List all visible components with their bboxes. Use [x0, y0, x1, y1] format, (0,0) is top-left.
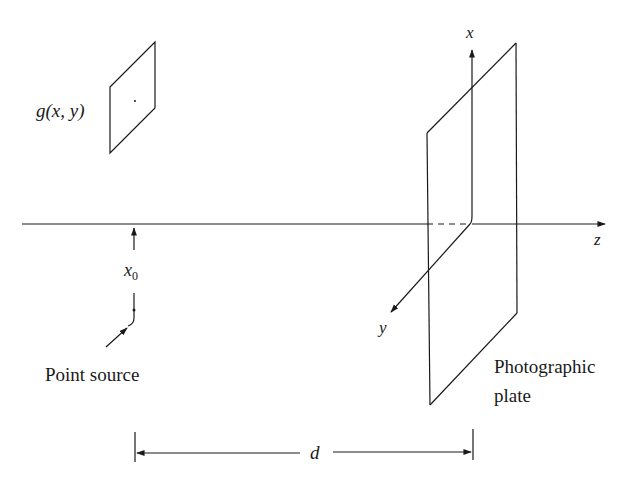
object-dot — [134, 100, 136, 102]
point-source-label: Point source — [45, 364, 139, 385]
distance-label: d — [310, 442, 320, 463]
y-axis — [391, 224, 470, 312]
distance-dimension — [135, 429, 473, 462]
x0-label: x0 — [123, 260, 138, 283]
x-axis-label: x — [465, 23, 474, 42]
plate-label-line1: Photographic — [494, 356, 595, 377]
hologram-recording-diagram: z g(x, y) x0 Point source Photo — [0, 0, 635, 493]
x-axis — [470, 50, 472, 224]
point-source-marker — [106, 293, 136, 347]
y-axis-label: y — [377, 318, 387, 337]
object-transparency — [110, 42, 155, 153]
object-function-label: g(x, y) — [36, 100, 85, 122]
plate-label-line2: plate — [494, 385, 531, 406]
z-axis-label: z — [593, 230, 601, 249]
